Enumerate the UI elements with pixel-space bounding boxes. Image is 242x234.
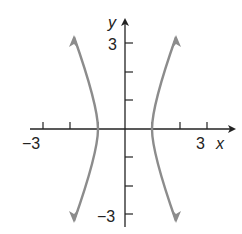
- arrow-icon: [69, 35, 79, 49]
- x-axis-label: x: [215, 135, 225, 152]
- x-max-label: 3: [196, 135, 205, 152]
- x-min-label: −3: [22, 135, 40, 152]
- hyperbola-graph: y 3 −3 −3 3 x: [0, 0, 242, 234]
- y-max-label: 3: [108, 36, 117, 53]
- y-axis-label: y: [107, 14, 117, 31]
- arrow-icon: [171, 35, 181, 49]
- arrow-icon: [69, 209, 79, 223]
- arrow-icon: [171, 209, 181, 223]
- y-min-label: −3: [97, 208, 115, 225]
